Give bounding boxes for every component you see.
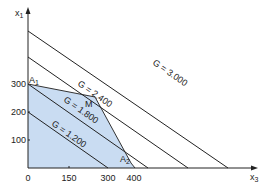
x-tick-label-150: 150 xyxy=(61,173,76,183)
feasible-region xyxy=(28,84,135,168)
y-tick-label-200: 200 xyxy=(11,107,26,117)
x-axis-arrow-icon xyxy=(251,166,258,171)
point-label-a2: A2 xyxy=(120,154,130,165)
x-tick-label-300: 300 xyxy=(100,173,115,183)
linear-programming-chart: x1 x3 0 150 300 400 100 200 300 A1 M A2 … xyxy=(0,0,270,192)
x-tick-label-0: 0 xyxy=(25,173,30,183)
y-tick-label-100: 100 xyxy=(11,135,26,145)
x-tick-label-400: 400 xyxy=(126,173,141,183)
y-tick-label-300: 300 xyxy=(11,79,26,89)
iso-label-g3000: G = 3.000 xyxy=(151,57,189,88)
point-label-a1: A1 xyxy=(29,75,39,86)
y-axis-arrow-icon xyxy=(26,7,31,14)
y-axis-label: x1 xyxy=(15,8,24,19)
x-axis-label: x3 xyxy=(250,172,259,183)
